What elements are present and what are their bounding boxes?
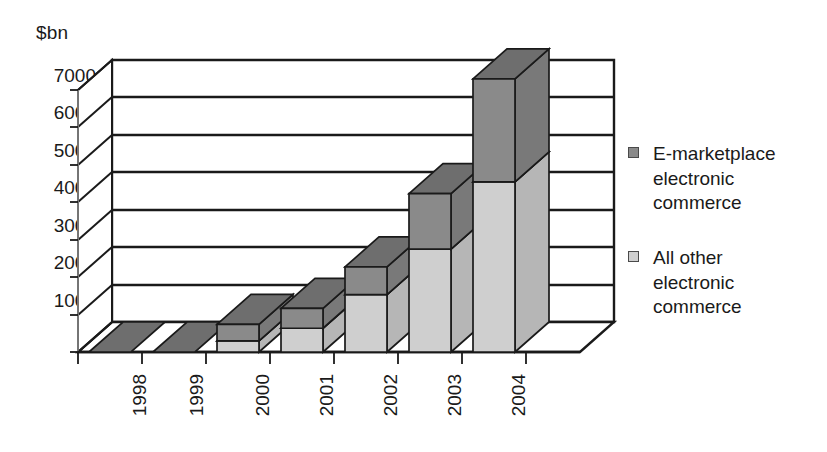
bar-column-2004 (473, 49, 549, 352)
bar-2001-all-other-front-face (281, 328, 323, 352)
bar-2003-all-other-front-face (409, 249, 451, 352)
legend-swatch-all-other-icon (628, 251, 639, 262)
bar-2000-emarketplace-front-face (217, 324, 259, 341)
bar-2004-all-other-front-face (473, 182, 515, 352)
bar-2004-emarketplace (473, 49, 549, 182)
legend-label-all-other: All other electronic commerce (653, 246, 742, 320)
bar-2004-all-other-side-face (515, 152, 549, 352)
chart-legend: E-marketplace electronic commerce All ot… (628, 142, 818, 350)
bar-2004-emarketplace-front-face (473, 79, 515, 182)
chart-side-wall (78, 60, 112, 352)
bar-2002-all-other-front-face (345, 295, 387, 352)
bar-2000-all-other-front-face (217, 341, 259, 352)
legend-label-emarketplace: E-marketplace electronic commerce (653, 142, 776, 216)
legend-item-all-other: All other electronic commerce (628, 246, 818, 320)
bar-2003-emarketplace-front-face (409, 194, 451, 249)
bar-2002-emarketplace-front-face (345, 267, 387, 295)
legend-swatch-emarketplace-icon (628, 147, 639, 158)
x-axis-line (78, 352, 580, 364)
legend-item-emarketplace: E-marketplace electronic commerce (628, 142, 818, 216)
bar-2001-emarketplace-front-face (281, 308, 323, 328)
y-axis-line (70, 90, 78, 352)
chart-figure: $bn 7000 6000 5000 4000 3000 2000 1000 0… (0, 0, 827, 452)
